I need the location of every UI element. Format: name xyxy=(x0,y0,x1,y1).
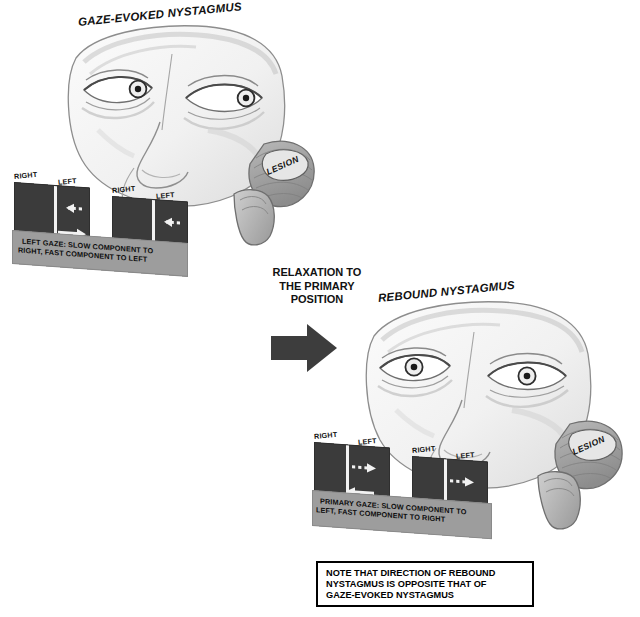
pupil xyxy=(411,364,418,371)
transition-line-1: RELAXATION TO xyxy=(252,266,382,280)
slow-arrow-left xyxy=(66,203,82,213)
box2-label-left: LEFT xyxy=(456,450,475,461)
transition-arrow-icon xyxy=(271,322,337,374)
pupil xyxy=(243,95,249,101)
box2-label-left: LEFT xyxy=(156,190,175,201)
slow-arrow-left xyxy=(164,217,180,227)
rebound-nystagmus-diagram: RIGHT LEFT RIGHT LEFT PRIMARY GAZE: SLOW… xyxy=(308,428,498,543)
box1-label-left: LEFT xyxy=(358,436,377,447)
brainstem xyxy=(234,190,274,245)
brainstem xyxy=(538,472,580,529)
box1-label-right: RIGHT xyxy=(314,430,338,441)
transition-line-2: THE PRIMARY xyxy=(252,280,382,294)
box1-label-left: LEFT xyxy=(58,176,77,187)
box2-label-right: RIGHT xyxy=(112,184,136,195)
note-line-1: NOTE THAT DIRECTION OF REBOUND xyxy=(326,568,495,579)
note-line-3: GAZE-EVOKED NYSTAGMUS xyxy=(326,590,454,601)
figure-canvas: LESION GAZE-EVOKED NYSTAGMUS xyxy=(0,0,640,617)
slow-arrow-right xyxy=(352,462,376,473)
slow-arrow-right xyxy=(450,476,474,487)
pupil xyxy=(135,86,141,92)
note-box: NOTE THAT DIRECTION OF REBOUND NYSTAGMUS… xyxy=(316,561,534,607)
box1-label-right: RIGHT xyxy=(14,170,38,181)
note-line-2: NYSTAGMUS IS OPPOSITE THAT OF xyxy=(326,579,486,590)
gaze-evoked-nystagmus-diagram: RIGHT LEFT RIGHT LEFT LEFT GAZE: SLOW CO… xyxy=(8,168,194,280)
pupil xyxy=(524,373,531,380)
box2-label-right: RIGHT xyxy=(412,444,436,455)
